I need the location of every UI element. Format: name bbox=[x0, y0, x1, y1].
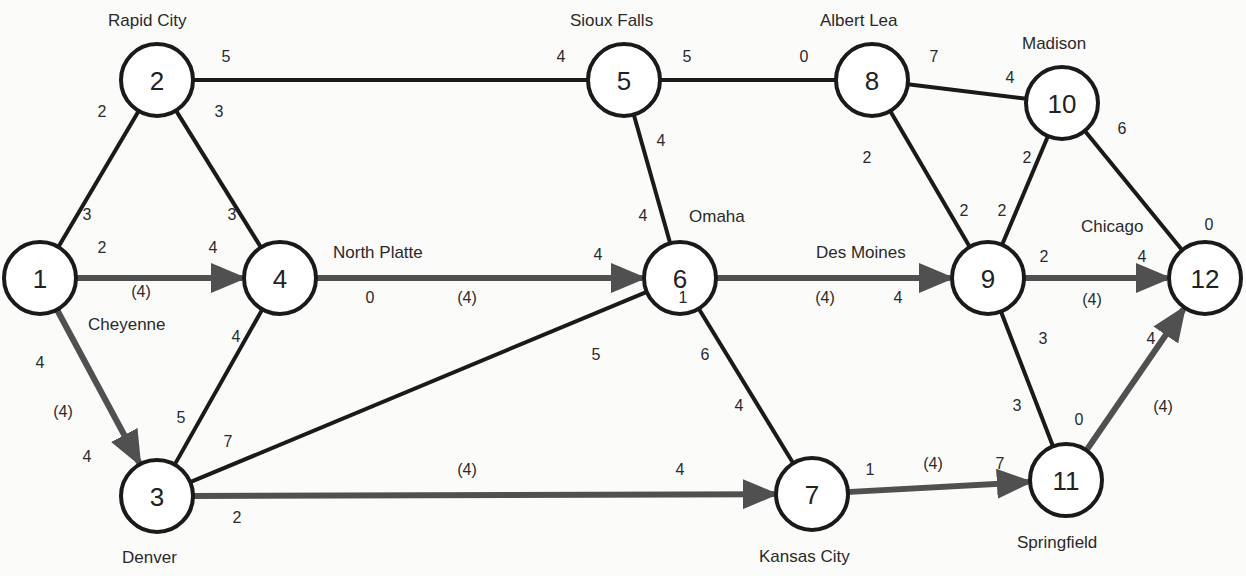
capacity-label: 7 bbox=[224, 433, 233, 450]
capacity-label: 5 bbox=[592, 346, 601, 363]
node-number: 4 bbox=[273, 264, 287, 294]
capacity-label: 4 bbox=[232, 328, 241, 345]
capacity-label: 6 bbox=[1118, 120, 1127, 137]
capacity-label: 4 bbox=[894, 289, 903, 306]
node-number: 5 bbox=[617, 66, 631, 96]
flow-value-label: (4) bbox=[923, 455, 943, 472]
capacity-label: 2 bbox=[1023, 149, 1032, 166]
flow-value-label: (4) bbox=[131, 283, 151, 300]
node-11: 11 bbox=[1030, 444, 1102, 516]
city-label: Rapid City bbox=[108, 11, 187, 30]
node-number: 2 bbox=[150, 66, 164, 96]
city-label: Chicago bbox=[1081, 217, 1143, 236]
city-label: North Platte bbox=[333, 243, 423, 262]
city-label: Kansas City bbox=[759, 547, 850, 566]
city-label: Madison bbox=[1022, 34, 1086, 53]
node-10: 10 bbox=[1026, 67, 1098, 139]
capacity-label: 0 bbox=[1075, 411, 1084, 428]
capacity-label: 2 bbox=[233, 509, 242, 526]
node-4: 4 bbox=[244, 242, 316, 314]
capacity-label: 4 bbox=[657, 132, 666, 149]
node-number: 9 bbox=[981, 264, 995, 294]
city-label: Springfield bbox=[1017, 533, 1097, 552]
arc-3-4 bbox=[174, 308, 264, 467]
capacity-label: 4 bbox=[1147, 330, 1156, 347]
city-label: Cheyenne bbox=[88, 315, 166, 334]
node-3: 3 bbox=[121, 460, 193, 532]
flow-value-label: (4) bbox=[1153, 398, 1173, 415]
capacity-label: 7 bbox=[930, 48, 939, 65]
city-label: Omaha bbox=[689, 207, 745, 226]
arc-8-10 bbox=[906, 84, 1028, 99]
capacity-label: 2 bbox=[998, 202, 1007, 219]
node-5: 5 bbox=[588, 44, 660, 116]
city-label: Denver bbox=[122, 548, 177, 567]
capacity-label: 2 bbox=[863, 149, 872, 166]
flow-value-label: (4) bbox=[815, 289, 835, 306]
city-label: Sioux Falls bbox=[570, 11, 653, 30]
capacity-label: 0 bbox=[800, 48, 809, 65]
flow-arc-3-7 bbox=[191, 494, 774, 496]
node-7: 7 bbox=[776, 458, 848, 530]
flow-value-label: (4) bbox=[457, 289, 477, 306]
capacity-label: 3 bbox=[228, 206, 237, 223]
capacity-label: 4 bbox=[1138, 248, 1147, 265]
capacity-label: 4 bbox=[639, 207, 648, 224]
capacity-label: 4 bbox=[36, 354, 45, 371]
node-9: 9 bbox=[952, 242, 1024, 314]
capacity-label: 4 bbox=[594, 246, 603, 263]
capacity-label: 2 bbox=[960, 202, 969, 219]
capacity-label: 3 bbox=[1013, 397, 1022, 414]
capacity-label: 5 bbox=[683, 48, 692, 65]
node-1: 1 bbox=[4, 242, 76, 314]
capacity-label: 7 bbox=[996, 455, 1005, 472]
node-number: 3 bbox=[150, 482, 164, 512]
capacity-label: 4 bbox=[209, 239, 218, 256]
capacity-label: 2 bbox=[98, 239, 107, 256]
node-number: 8 bbox=[865, 66, 879, 96]
capacity-label: 0 bbox=[1205, 216, 1214, 233]
capacity-label: 3 bbox=[1039, 330, 1048, 347]
capacity-label: 4 bbox=[676, 461, 685, 478]
capacity-label: 4 bbox=[557, 48, 566, 65]
city-label: Des Moines bbox=[816, 243, 906, 262]
node-number: 7 bbox=[805, 480, 819, 510]
arc-8-9 bbox=[889, 109, 971, 248]
capacity-label: 3 bbox=[83, 206, 92, 223]
node-number: 10 bbox=[1048, 89, 1077, 119]
arc-2-4 bbox=[175, 109, 262, 249]
node-number: 11 bbox=[1053, 466, 1080, 496]
capacity-label: 2 bbox=[98, 103, 107, 120]
capacity-label: 4 bbox=[1006, 69, 1015, 86]
capacity-label: 3 bbox=[215, 103, 224, 120]
flow-arc-7-11 bbox=[846, 482, 1028, 492]
capacity-label: 1 bbox=[679, 289, 688, 306]
capacity-label: 2 bbox=[1040, 248, 1049, 265]
capacity-label: 0 bbox=[366, 289, 375, 306]
capacity-label: 1 bbox=[866, 461, 875, 478]
capacity-label: 4 bbox=[83, 448, 92, 465]
node-12: 12 bbox=[1169, 242, 1241, 314]
flow-arc-11-12 bbox=[1085, 309, 1183, 452]
node-2: 2 bbox=[121, 44, 193, 116]
node-number: 12 bbox=[1191, 264, 1220, 294]
capacity-label: 4 bbox=[735, 397, 744, 414]
node-number: 1 bbox=[33, 264, 47, 294]
capacity-label: 5 bbox=[177, 409, 186, 426]
city-label: Albert Lea bbox=[820, 11, 898, 30]
capacity-label: 5 bbox=[222, 48, 231, 65]
capacity-label: 6 bbox=[701, 346, 710, 363]
arc-6-7 bbox=[698, 307, 795, 465]
node-8: 8 bbox=[836, 44, 908, 116]
flow-value-label: (4) bbox=[457, 461, 477, 478]
network-flow-diagram: 123456789101112 2533324(4)4(4)445720(4)4… bbox=[0, 0, 1246, 576]
arc-1-2 bbox=[57, 109, 139, 248]
nodes-layer: 123456789101112 bbox=[4, 44, 1241, 532]
flow-value-label: (4) bbox=[1082, 291, 1102, 308]
flow-value-label: (4) bbox=[53, 403, 73, 420]
